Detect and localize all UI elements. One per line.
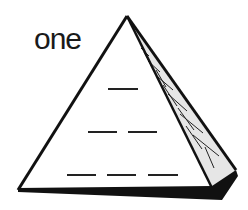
pyramid-label: one [34,24,81,54]
pyramid-side-face [127,16,236,193]
blank-lines [67,89,178,175]
pyramid-diagram: one [0,0,248,210]
